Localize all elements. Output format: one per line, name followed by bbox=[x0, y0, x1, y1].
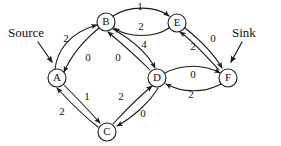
node-c[interactable]: C bbox=[98, 123, 116, 141]
edge-weight-d-c: 0 bbox=[140, 107, 146, 119]
source-label: Source bbox=[8, 25, 44, 40]
sink-label: Sink bbox=[232, 25, 256, 40]
edge-a-c bbox=[64, 85, 100, 123]
edge-weight-b-d: 4 bbox=[141, 38, 147, 50]
edge-weight-e-f: 0 bbox=[210, 32, 216, 44]
edge-weight-d-f: 0 bbox=[190, 68, 196, 80]
source-pointer-arrow bbox=[38, 42, 52, 62]
edge-weight-f-e: 2 bbox=[190, 40, 196, 52]
edge-weight-b-e: 1 bbox=[137, 0, 143, 12]
node-b-label: B bbox=[102, 15, 109, 27]
edge-weight-a-c: 1 bbox=[84, 90, 90, 102]
edge-b-a bbox=[64, 28, 99, 72]
node-a-label: A bbox=[53, 71, 61, 83]
node-e[interactable]: E bbox=[168, 14, 186, 32]
edge-weight-f-d: 2 bbox=[188, 88, 194, 100]
node-e-label: E bbox=[174, 16, 181, 28]
edge-weight-d-b: 0 bbox=[115, 51, 121, 63]
flow-network-diagram: A B C D E F 2 0 1 2 4 0 0 2 0 2 bbox=[0, 0, 281, 146]
edge-weight-c-a: 2 bbox=[59, 105, 65, 117]
edge-weight-a-b: 2 bbox=[63, 32, 69, 44]
edge-weight-e-b: 2 bbox=[138, 20, 144, 32]
node-b[interactable]: B bbox=[97, 13, 115, 31]
node-f[interactable]: F bbox=[219, 69, 237, 87]
graph-canvas: A B C D E F 2 0 1 2 4 0 0 2 0 2 bbox=[0, 0, 281, 146]
node-d-label: D bbox=[153, 71, 161, 83]
node-f-label: F bbox=[225, 71, 231, 83]
node-a[interactable]: A bbox=[48, 69, 66, 87]
node-c-label: C bbox=[103, 125, 110, 137]
sink-pointer-arrow bbox=[231, 42, 242, 62]
node-d[interactable]: D bbox=[148, 69, 166, 87]
edge-weight-b-a: 0 bbox=[85, 51, 91, 63]
edge-weight-c-d: 2 bbox=[118, 90, 124, 102]
